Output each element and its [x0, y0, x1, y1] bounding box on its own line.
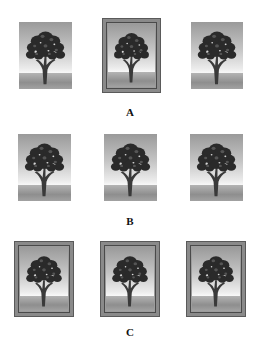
tree-icon: [18, 134, 71, 201]
tree-icon: [19, 22, 72, 89]
tree-image: [191, 22, 243, 89]
row-label-b: B: [120, 215, 140, 227]
row-label-c: C: [120, 326, 140, 338]
image-a2-framed: [102, 18, 161, 93]
image-c3-framed: [186, 241, 246, 317]
tree-icon: [20, 247, 68, 311]
image-c1-framed: [14, 241, 74, 317]
image-b1: [18, 134, 71, 201]
tree-image: [20, 247, 68, 311]
image-a1: [19, 22, 72, 89]
picture-frame: [100, 241, 160, 317]
tree-icon: [191, 22, 243, 89]
picture-frame: [14, 241, 74, 317]
row-label-a: A: [120, 106, 140, 118]
tree-icon: [190, 134, 243, 201]
tree-icon: [106, 247, 154, 311]
picture-frame: [186, 241, 246, 317]
tree-image: [18, 134, 71, 201]
tree-image: [192, 247, 240, 311]
tree-icon: [108, 24, 155, 87]
tree-image: [104, 134, 157, 201]
image-b3: [190, 134, 243, 201]
picture-frame: [102, 18, 161, 93]
image-b2: [104, 134, 157, 201]
tree-image: [19, 22, 72, 89]
tree-image: [108, 24, 155, 87]
tree-icon: [104, 134, 157, 201]
tree-image: [190, 134, 243, 201]
image-a3: [191, 22, 243, 89]
tree-image: [106, 247, 154, 311]
tree-icon: [192, 247, 240, 311]
image-c2-framed: [100, 241, 160, 317]
